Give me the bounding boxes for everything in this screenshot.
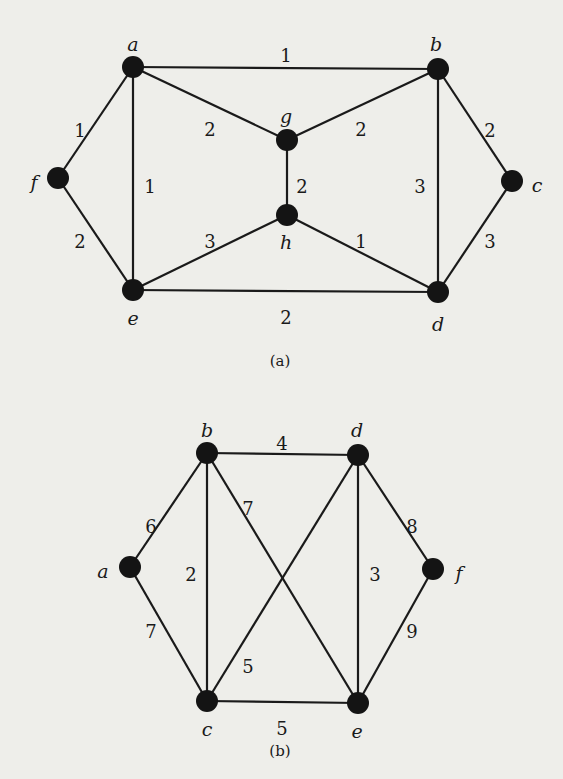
vertex-d bbox=[347, 444, 369, 466]
vertex-label: f bbox=[28, 171, 40, 193]
vertex-label: c bbox=[532, 174, 543, 196]
edge-weight-label: 5 bbox=[242, 656, 253, 677]
vertex-label: h bbox=[280, 231, 292, 253]
graph-figure: 1221123223132abgfched(a) 4627538795bdafc… bbox=[0, 0, 563, 779]
edge-a-f bbox=[58, 67, 133, 178]
edge-weight-label: 8 bbox=[406, 516, 417, 537]
vertex-label: g bbox=[280, 105, 292, 127]
edge-weight-label: 6 bbox=[145, 516, 156, 537]
edge-weight-label: 2 bbox=[296, 176, 307, 197]
edge-weight-label: 1 bbox=[280, 45, 291, 66]
edge-weight-label: 7 bbox=[145, 621, 156, 642]
graph-b: 4627538795bdafce(b) bbox=[97, 419, 465, 760]
vertex-e bbox=[347, 692, 369, 714]
vertex-c bbox=[501, 170, 523, 192]
edge-weight-label: 2 bbox=[484, 120, 495, 141]
figure-caption: (a) bbox=[270, 352, 291, 370]
edge-weight-label: 2 bbox=[74, 231, 85, 252]
edge-a-b bbox=[133, 67, 438, 69]
vertex-a bbox=[119, 556, 141, 578]
edge-weight-label: 2 bbox=[280, 307, 291, 328]
graph-a: 1221123223132abgfched(a) bbox=[28, 33, 542, 370]
vertex-b bbox=[196, 442, 218, 464]
edge-weight-label: 9 bbox=[406, 621, 417, 642]
vertex-label: a bbox=[97, 560, 108, 582]
edge-d-f bbox=[358, 455, 433, 569]
edge-c-d bbox=[438, 181, 512, 292]
vertex-label: d bbox=[432, 313, 444, 335]
vertex-e bbox=[122, 279, 144, 301]
edge-weight-label: 3 bbox=[369, 564, 380, 585]
edge-weight-label: 3 bbox=[414, 176, 425, 197]
edge-weight-label: 2 bbox=[355, 119, 366, 140]
vertex-f bbox=[47, 167, 69, 189]
vertex-label: f bbox=[453, 562, 465, 584]
figure-caption: (b) bbox=[269, 742, 290, 760]
edge-e-f bbox=[358, 569, 433, 703]
vertex-f bbox=[422, 558, 444, 580]
edge-a-b bbox=[130, 453, 207, 567]
vertex-g bbox=[276, 129, 298, 151]
edge-h-d bbox=[287, 215, 438, 292]
edge-weight-label: 5 bbox=[276, 718, 287, 739]
vertex-label: d bbox=[351, 419, 363, 441]
edge-e-d bbox=[133, 290, 438, 292]
vertex-c bbox=[196, 690, 218, 712]
edge-weight-label: 3 bbox=[204, 231, 215, 252]
edge-weight-label: 7 bbox=[242, 498, 253, 519]
vertex-label: a bbox=[127, 33, 138, 55]
edge-weight-label: 1 bbox=[144, 176, 155, 197]
edge-a-c bbox=[130, 567, 207, 701]
edge-f-e bbox=[58, 178, 133, 290]
vertex-label: b bbox=[201, 419, 213, 441]
vertex-label: e bbox=[351, 720, 362, 742]
vertex-label: c bbox=[202, 718, 213, 740]
edge-weight-label: 2 bbox=[185, 564, 196, 585]
edge-weight-label: 4 bbox=[276, 433, 287, 454]
vertex-d bbox=[427, 281, 449, 303]
edge-b-c bbox=[438, 69, 512, 181]
edge-weight-label: 1 bbox=[74, 120, 85, 141]
vertex-b bbox=[427, 58, 449, 80]
vertex-h bbox=[276, 204, 298, 226]
vertex-a bbox=[122, 56, 144, 78]
vertex-label: b bbox=[430, 33, 442, 55]
edge-e-h bbox=[133, 215, 287, 290]
vertex-label: e bbox=[127, 307, 138, 329]
edge-weight-label: 3 bbox=[484, 231, 495, 252]
edge-weight-label: 2 bbox=[204, 119, 215, 140]
edge-weight-label: 1 bbox=[355, 231, 366, 252]
edge-c-e bbox=[207, 701, 358, 703]
